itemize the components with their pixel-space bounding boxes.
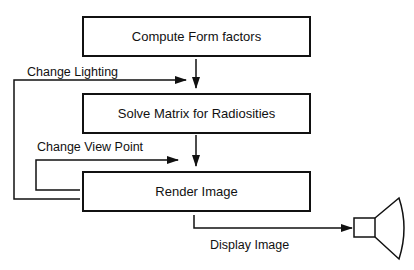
render-image-label: Render Image — [155, 184, 237, 199]
compute-form-factors-label: Compute Form factors — [132, 29, 262, 44]
display-image-label: Display Image — [210, 238, 289, 252]
compute-form-factors-node: Compute Form factors — [83, 17, 310, 56]
solve-matrix-node: Solve Matrix for Radiosities — [83, 94, 310, 133]
render-image-node: Render Image — [83, 172, 310, 211]
solve-matrix-label: Solve Matrix for Radiosities — [118, 106, 276, 121]
display-device-icon — [354, 198, 404, 259]
change-lighting-label: Change Lighting — [27, 65, 118, 79]
radiosity-pipeline-diagram: Compute Form factors Change Lighting Sol… — [0, 0, 414, 270]
change-view-point-label: Change View Point — [37, 140, 144, 154]
display-image-edge: Display Image — [194, 215, 352, 252]
change-view-point-loop: Change View Point — [36, 140, 178, 190]
